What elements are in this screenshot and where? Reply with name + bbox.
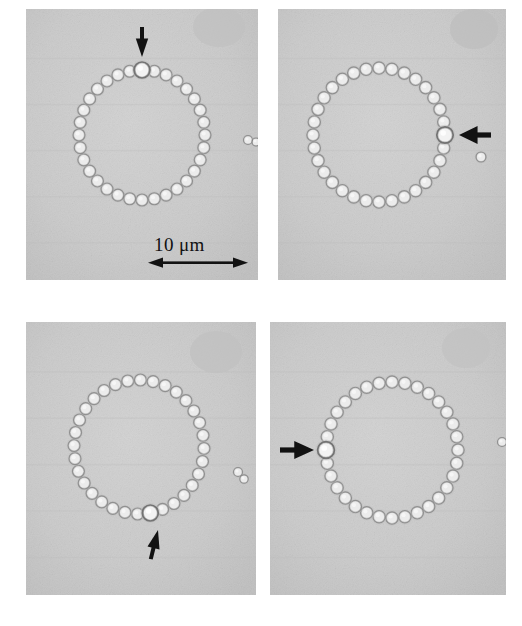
tagged-bead	[140, 503, 160, 523]
micrograph-figure: 10 μm	[0, 0, 522, 626]
scale-bar-double-arrow-icon	[148, 256, 248, 270]
tagged-bead	[132, 60, 152, 80]
micrograph-panel-bottom-left	[26, 322, 256, 595]
scale-bar: 10 μm	[148, 234, 248, 272]
micrograph-panel-bottom-right	[270, 322, 506, 595]
micrograph-panel-top-right	[278, 9, 506, 280]
tagged-bead	[316, 440, 337, 461]
tagged-bead	[435, 125, 456, 146]
scale-bar-label: 10 μm	[154, 234, 205, 256]
